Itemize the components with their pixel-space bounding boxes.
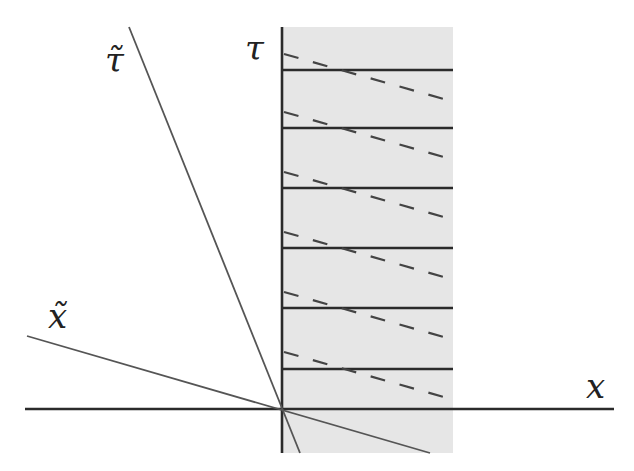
tau-tilde-label: τ̃ [105,40,125,80]
x-tilde-label: x̃ [48,296,68,336]
tau-label: τ [245,28,265,68]
tau-tilde-axis [129,27,300,453]
x-label: x [586,366,605,406]
shaded-strip [282,27,453,453]
spacetime-diagram: τ̃ τ x̃ x [0,0,634,471]
